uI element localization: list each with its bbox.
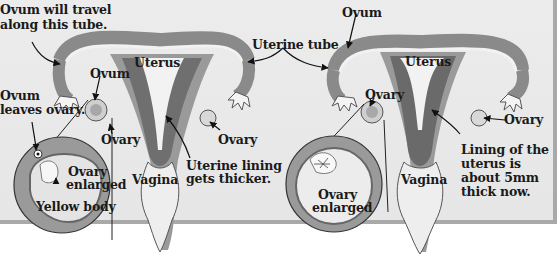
label-vagina-right: Vagina — [401, 173, 447, 187]
label-lining-2: uterus is — [461, 157, 521, 171]
label-ovum-travel-2: along this tube. — [0, 18, 107, 32]
label-ovum-leaves-1: Ovum — [0, 89, 40, 103]
label-ovary-enlarged-right-2: enlarged — [312, 201, 372, 215]
label-ovary-enlarged-left-2: enlarged — [66, 178, 126, 192]
label-ovum-leaves-2: leaves ovary. — [0, 103, 85, 117]
label-ovary-left-right: Ovary — [218, 133, 257, 147]
label-lining-3: about 5mm — [461, 171, 539, 185]
label-yellow-body: Yellow body — [36, 200, 116, 214]
label-uterine-tube: Uterine tube — [252, 38, 339, 52]
label-uterus-left: Uterus — [134, 56, 180, 70]
label-lining-1: Lining of the — [461, 143, 549, 157]
label-ovary-left-small: Ovary — [101, 133, 140, 147]
label-ovary-right-small: Ovary — [365, 88, 404, 102]
label-ovum-travel-1: Ovum will travel — [0, 3, 111, 17]
label-uterus-right: Uterus — [405, 55, 451, 69]
label-vagina-left: Vagina — [132, 173, 178, 187]
label-lining-4: thick now. — [461, 185, 531, 199]
label-ovum-left: Ovum — [90, 67, 130, 81]
label-ovum-right: Ovum — [342, 6, 382, 20]
label-uterine-lining-2: gets thicker. — [186, 172, 271, 186]
left-ovary-right — [200, 110, 216, 126]
label-ovary-right-right: Ovary — [504, 113, 543, 127]
